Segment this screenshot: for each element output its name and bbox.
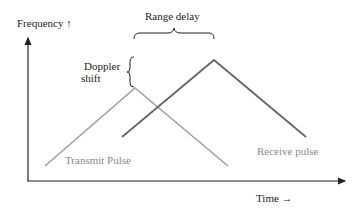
y-axis-label: Frequency ↑ (17, 17, 72, 29)
receive-pulse-label: Receive pulse (257, 145, 318, 157)
doppler-shift-brace (127, 57, 134, 87)
x-axis-label: Time → (256, 192, 293, 204)
receive-pulse-line (122, 60, 306, 137)
range-delay-label: Range delay (145, 10, 200, 22)
doppler-shift-label-1: Doppler (84, 60, 120, 72)
diagram-canvas (0, 0, 364, 214)
range-delay-brace (134, 28, 214, 39)
doppler-shift-label-2: shift (81, 72, 101, 84)
transmit-pulse-label: Transmit Pulse (65, 154, 131, 166)
